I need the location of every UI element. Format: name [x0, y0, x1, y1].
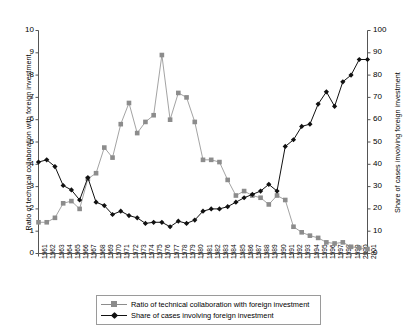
chart-container: Ratio of technical collaboration with fo…	[0, 0, 417, 328]
data-point	[143, 120, 148, 125]
data-point	[118, 209, 123, 214]
data-point	[184, 95, 189, 100]
data-point	[283, 198, 288, 203]
data-point	[209, 206, 214, 211]
data-point	[159, 220, 164, 225]
data-point	[94, 171, 99, 176]
data-point	[135, 131, 140, 136]
data-point	[151, 113, 156, 118]
legend-item-ratio: Ratio of technical collaboration with fo…	[101, 299, 315, 310]
data-point	[299, 124, 304, 129]
data-point	[93, 200, 98, 205]
data-point	[69, 199, 74, 204]
data-point	[192, 120, 197, 125]
legend-label-ratio: Ratio of technical collaboration with fo…	[131, 300, 309, 309]
legend-marker-square-icon	[101, 300, 127, 309]
data-point	[316, 236, 321, 241]
series-2	[36, 57, 370, 229]
data-point	[176, 91, 181, 96]
data-point	[365, 57, 370, 62]
data-point	[332, 104, 337, 109]
data-point	[61, 201, 66, 206]
data-point	[127, 101, 132, 106]
data-point	[324, 240, 329, 245]
data-point	[217, 206, 222, 211]
data-point	[217, 160, 222, 165]
data-point	[209, 158, 214, 163]
data-point	[299, 230, 304, 235]
data-point	[357, 246, 362, 251]
data-point	[233, 200, 238, 205]
data-point	[357, 57, 362, 62]
legend-marker-diamond-icon	[101, 311, 127, 320]
data-point	[341, 240, 346, 245]
chart-legend: Ratio of technical collaboration with fo…	[96, 295, 321, 325]
data-point	[234, 193, 239, 198]
data-point	[168, 117, 173, 122]
data-point	[324, 89, 329, 94]
data-point	[77, 207, 82, 212]
data-point	[53, 216, 58, 221]
data-point	[201, 158, 206, 163]
data-point	[275, 193, 280, 198]
data-point	[225, 178, 230, 183]
data-point	[36, 220, 41, 225]
series-layer	[36, 53, 370, 252]
data-point	[349, 245, 354, 250]
data-point	[267, 202, 272, 207]
data-point	[365, 247, 370, 252]
axes-layer	[36, 31, 371, 257]
data-point	[291, 224, 296, 229]
data-point	[242, 189, 247, 194]
series-1	[36, 53, 370, 252]
data-point	[102, 145, 107, 150]
data-point	[258, 195, 263, 200]
plot-area	[0, 0, 417, 328]
data-point	[332, 241, 337, 246]
data-point	[110, 155, 115, 160]
data-point	[44, 220, 49, 225]
data-point	[126, 213, 131, 218]
data-point	[151, 220, 156, 225]
legend-label-share: Share of cases involving foreign investm…	[131, 311, 274, 320]
legend-item-share: Share of cases involving foreign investm…	[101, 310, 315, 321]
data-point	[308, 233, 313, 238]
data-point	[61, 183, 66, 188]
data-point	[118, 122, 123, 127]
data-point	[184, 221, 189, 226]
data-point	[160, 53, 165, 58]
data-point	[225, 204, 230, 209]
data-point	[242, 195, 247, 200]
data-point	[307, 122, 312, 127]
